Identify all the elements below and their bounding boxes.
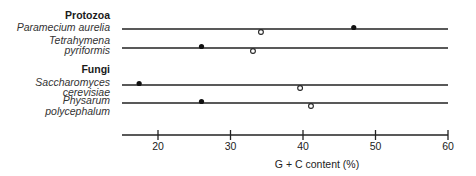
filled-data-point [199,44,204,49]
open-data-point [259,30,264,35]
gc-content-chart: 2030405060 G + C content (%) [0,0,476,176]
open-data-point [251,49,256,54]
x-tick-label: 20 [152,140,164,152]
filled-data-point [351,25,356,30]
x-tick-label: 50 [370,140,382,152]
filled-data-point [199,99,204,104]
open-data-point [309,104,314,109]
filled-data-point [137,81,142,86]
x-tick-label: 60 [442,140,454,152]
x-axis: 2030405060 G + C content (%) [122,130,454,170]
x-tick-label: 40 [297,140,309,152]
x-tick-label: 30 [225,140,237,152]
x-axis-title: G + C content (%) [275,158,359,170]
organism-rows [122,25,448,109]
open-data-point [298,86,303,91]
